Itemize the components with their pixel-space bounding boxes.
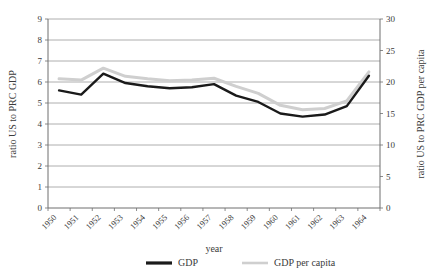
y-tick-label-left: 1 — [38, 182, 43, 192]
line-chart: 0123456789 051015202530 1950195119521953… — [0, 0, 436, 280]
y-axis-right-title: ratio US to PRC GDP per capita — [415, 49, 426, 179]
y-tick-label-left: 7 — [38, 56, 43, 66]
y-tick-label-right: 25 — [386, 46, 396, 56]
y-tick-label-left: 5 — [38, 98, 43, 108]
y-tick-label-left: 0 — [38, 203, 43, 213]
legend-label-gdp: GDP — [178, 257, 198, 268]
x-axis-title: year — [205, 243, 223, 254]
y-axis-left-title: ratio US to PRC GDP — [7, 70, 18, 158]
y-tick-label-right: 30 — [386, 14, 396, 24]
legend-label-gdp-per-capita: GDP per capita — [274, 257, 336, 268]
chart-background — [0, 0, 436, 280]
y-tick-label-right: 0 — [386, 203, 391, 213]
chart-container: 0123456789 051015202530 1950195119521953… — [0, 0, 436, 280]
y-tick-label-left: 2 — [38, 161, 43, 171]
y-tick-label-left: 6 — [38, 77, 43, 87]
y-tick-label-right: 15 — [386, 109, 396, 119]
y-tick-label-right: 10 — [386, 140, 396, 150]
y-tick-label-right: 5 — [386, 172, 391, 182]
y-tick-label-left: 8 — [38, 35, 43, 45]
y-tick-label-right: 20 — [386, 77, 396, 87]
y-tick-label-left: 4 — [38, 119, 43, 129]
y-tick-label-left: 3 — [38, 140, 43, 150]
y-tick-label-left: 9 — [38, 14, 43, 24]
